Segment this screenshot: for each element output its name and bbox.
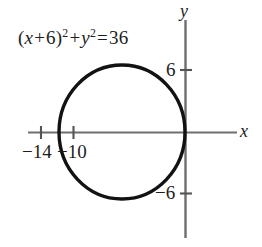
equation-var-y: y [81,27,90,48]
y-tick-label-neg6: −6 [155,183,175,202]
y-tick-label-6: 6 [166,60,176,79]
equation-plus-inner: + [33,27,46,48]
circle-graph-figure: (x+6)2+y2=36 y x −14 −10 6 −6 [0,0,262,247]
equation-rhs: 36 [109,27,128,48]
equation-const-6: 6 [46,27,56,48]
y-axis-label: y [180,2,188,20]
x-axis-label: x [240,122,248,140]
x-tick-label-neg10: −10 [57,142,87,161]
equation-var-x: x [25,27,34,48]
equation-label: (x+6)2+y2=36 [18,28,128,47]
equation-equals-sign: = [96,27,109,48]
equation-plus-outer: + [68,27,81,48]
x-tick-label-neg14: −14 [22,142,52,161]
